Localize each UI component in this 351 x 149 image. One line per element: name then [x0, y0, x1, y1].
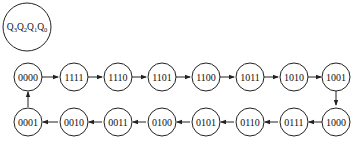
state-label: 1110	[108, 72, 127, 83]
legend-node: Q3Q2Q1Q0	[3, 3, 51, 51]
state-node: 1011	[236, 63, 264, 91]
state-label: 1101	[152, 72, 172, 83]
state-node: 1100	[192, 63, 220, 91]
state-label: 0000	[18, 72, 38, 83]
state-label: 0111	[284, 117, 303, 128]
state-node: 0000	[14, 63, 42, 91]
state-node: 0111	[280, 108, 308, 136]
state-label: 1001	[326, 72, 346, 83]
state-node: 1001	[322, 63, 350, 91]
state-node: 0010	[60, 108, 88, 136]
state-diagram: Q3Q2Q1Q0 0000 1111 1110 1101 1100 1011 1…	[0, 0, 351, 149]
state-label: 1010	[284, 72, 304, 83]
state-node: 0110	[236, 108, 264, 136]
state-label: 0010	[64, 117, 84, 128]
state-label: 0011	[108, 117, 128, 128]
state-node: 1010	[280, 63, 308, 91]
legend-label: Q3Q2Q1Q0	[7, 22, 48, 33]
state-label: 1100	[196, 72, 216, 83]
state-label: 0001	[18, 117, 38, 128]
state-node: 1111	[60, 63, 88, 91]
state-label: 0100	[152, 117, 172, 128]
state-label: 1011	[240, 72, 260, 83]
state-node: 1110	[104, 63, 132, 91]
state-node: 0100	[148, 108, 176, 136]
state-node: 0101	[192, 108, 220, 136]
state-node: 1000	[322, 108, 350, 136]
state-label: 0101	[196, 117, 216, 128]
state-label: 1111	[65, 72, 84, 83]
state-node: 1101	[148, 63, 176, 91]
state-node: 0011	[104, 108, 132, 136]
state-label: 1000	[326, 117, 346, 128]
state-label: 0110	[240, 117, 260, 128]
state-node: 0001	[14, 108, 42, 136]
